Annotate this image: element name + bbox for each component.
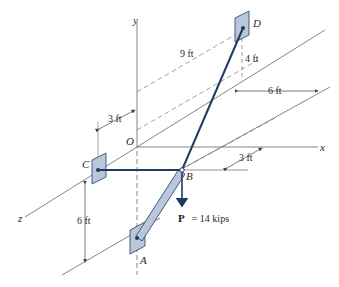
joint-b — [180, 168, 184, 172]
z-axis-label: z — [17, 212, 23, 224]
load-symbol: P — [178, 212, 185, 224]
z-axis — [25, 147, 137, 217]
y-axis-label: y — [132, 14, 138, 26]
joint-a — [135, 236, 139, 240]
joint-d — [241, 26, 245, 30]
z-axis-ext — [137, 30, 325, 147]
point-d-label: D — [252, 17, 261, 29]
dim-3ft-left-label: 3 ft — [108, 113, 122, 124]
joint-c — [96, 168, 100, 172]
dashed-mid — [137, 60, 258, 130]
origin-label: O — [126, 135, 134, 147]
dashed-upper — [137, 32, 240, 92]
point-c-label: C — [82, 158, 90, 170]
dim-4ft-label: 4 ft — [245, 53, 259, 64]
x-axis-label: x — [319, 141, 325, 153]
strut-ab — [136, 169, 185, 241]
point-a-label: A — [139, 254, 147, 266]
dim-3ft-right-label: 3 ft — [239, 152, 253, 163]
load-value: = 14 kips — [192, 213, 229, 224]
load-label: P = 14 kips — [178, 208, 229, 225]
point-b-label: B — [186, 170, 193, 182]
dim-9ft-label: 9 ft — [180, 48, 194, 59]
dim-6ft-left-label: 6 ft — [77, 215, 91, 226]
dim-6ft-top-label: 6 ft — [268, 85, 282, 96]
truss-diagram: y x z O D C B A 9 ft 4 ft 6 ft 3 ft 3 ft… — [0, 0, 339, 287]
